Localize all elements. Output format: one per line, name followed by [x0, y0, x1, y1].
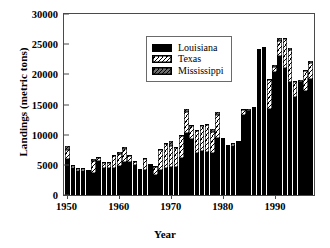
legend-label-louisiana: Louisiana: [178, 43, 217, 53]
bar-1951: [71, 14, 75, 195]
legend-label-mississippi: Mississippi: [178, 66, 224, 76]
bar-1960: [117, 14, 121, 195]
bar-segment-louisiana-1964: [138, 171, 142, 195]
bar-1952: [76, 14, 80, 195]
x-tick-label-1970: 1970: [160, 201, 181, 212]
bar-segment-louisiana-1968: [158, 170, 162, 195]
bar-segment-texas-1950: [65, 150, 69, 158]
bar-segment-louisiana-1977: [205, 152, 209, 195]
bar-1997: [308, 14, 312, 195]
bar-segment-louisiana-1987: [257, 50, 261, 195]
bar-segment-texas-1965: [143, 159, 147, 170]
y-tick-mark-25000: [64, 44, 69, 45]
bar-segment-louisiana-1979: [215, 138, 219, 195]
legend-label-texas: Texas: [178, 54, 201, 64]
bar-segment-louisiana-1990: [272, 72, 276, 195]
x-tick-mark-1980: [223, 195, 224, 199]
y-tick-mark-10000: [64, 134, 69, 135]
bar-segment-texas-1961: [122, 149, 126, 162]
bar-segment-texas-1976: [200, 126, 204, 151]
y-tick-label-5000: 5000: [37, 159, 64, 170]
bar-segment-louisiana-1986: [252, 109, 256, 195]
bar-1961: [122, 14, 126, 195]
y-tick-mark-20000: [64, 74, 69, 75]
x-tick-mark-1970: [171, 195, 172, 199]
bar-segment-louisiana-1951: [71, 168, 75, 195]
bar-segment-louisiana-1985: [246, 111, 250, 195]
bar-segment-texas-1994: [293, 82, 297, 96]
bar-segment-louisiana-1969: [164, 168, 168, 195]
bar-1962: [127, 14, 131, 195]
bar-1956: [96, 14, 100, 195]
bar-segment-louisiana-1996: [303, 91, 307, 195]
bar-segment-louisiana-1958: [107, 168, 111, 195]
bar-segment-louisiana-1960: [117, 166, 121, 195]
bar-segment-texas-1972: [179, 136, 183, 158]
bar-1955: [91, 14, 95, 195]
bar-segment-texas-1989: [267, 80, 271, 108]
bar-1957: [102, 14, 106, 195]
bar-1992: [283, 14, 287, 195]
bar-segment-texas-1974: [189, 126, 193, 139]
bar-segment-louisiana-1952: [76, 171, 80, 195]
bar-segment-texas-1978: [210, 132, 214, 154]
bar-segment-louisiana-1989: [267, 109, 271, 195]
bar-segment-texas-1960: [117, 154, 121, 166]
bar-segment-texas-1962: [127, 156, 131, 163]
plot-area: 050001000015000200002500030000 195019601…: [63, 13, 315, 196]
bar-1954: [86, 14, 90, 195]
x-tick-mark-1950: [67, 195, 68, 199]
bar-segment-texas-1992: [283, 39, 287, 69]
y-tick-mark-30000: [64, 14, 69, 15]
bar-segment-louisiana-1980: [221, 138, 225, 195]
bar-segment-louisiana-1953: [81, 171, 85, 195]
bar-segment-louisiana-1966: [148, 166, 152, 195]
bar-segment-texas-1970: [169, 146, 173, 167]
bar-segment-louisiana-1975: [195, 153, 199, 195]
legend-item-mississippi: Mississippi: [152, 66, 224, 76]
bar-segment-louisiana-1962: [127, 162, 131, 195]
bar-segment-louisiana-1965: [143, 170, 147, 195]
bar-segment-louisiana-1992: [283, 68, 287, 195]
bar-segment-louisiana-1994: [293, 97, 297, 195]
bar-1994: [293, 14, 297, 195]
bar-segment-texas-1973: [184, 112, 188, 133]
bar-1958: [107, 14, 111, 195]
bar-segment-louisiana-1983: [236, 143, 240, 195]
bar-segment-louisiana-1997: [308, 79, 312, 195]
bar-segment-texas-1968: [158, 150, 162, 170]
bar-segment-louisiana-1976: [200, 151, 204, 195]
y-tick-label-20000: 20000: [32, 69, 64, 80]
bar-segment-louisiana-1956: [96, 161, 100, 195]
bar-segment-louisiana-1961: [122, 162, 126, 195]
bar-segment-texas-1996: [303, 71, 307, 91]
bar-segment-louisiana-1995: [298, 82, 302, 195]
bar-segment-louisiana-1973: [184, 133, 188, 195]
x-tick-mark-1990: [275, 195, 276, 199]
x-axis-title: Year: [0, 228, 330, 240]
bar-segment-louisiana-1971: [174, 167, 178, 195]
y-tick-label-10000: 10000: [32, 129, 64, 140]
y-tick-label-30000: 30000: [32, 9, 64, 20]
bar-segment-texas-1979: [215, 115, 219, 138]
y-tick-label-15000: 15000: [32, 99, 64, 110]
bar-1984: [241, 14, 245, 195]
bar-segment-louisiana-1970: [169, 167, 173, 195]
x-tick-mark-1960: [119, 195, 120, 199]
x-tick-label-1980: 1980: [212, 201, 233, 212]
bar-segment-texas-1959: [112, 156, 116, 167]
bar-1988: [262, 14, 266, 195]
bar-1983: [236, 14, 240, 195]
bar-segment-texas-1975: [195, 131, 199, 153]
legend-swatch-louisiana: [152, 44, 172, 52]
chart-legend: LouisianaTexasMississippi: [146, 36, 232, 82]
bar-1985: [246, 14, 250, 195]
bar-1996: [303, 14, 307, 195]
y-tick-mark-15000: [64, 104, 69, 105]
bar-segment-louisiana-1991: [277, 56, 281, 195]
bar-segment-louisiana-1978: [210, 153, 214, 195]
bar-segment-texas-1977: [205, 125, 209, 152]
bar-1990: [272, 14, 276, 195]
bar-segment-texas-1971: [174, 148, 178, 167]
bar-segment-texas-1993: [288, 50, 292, 82]
